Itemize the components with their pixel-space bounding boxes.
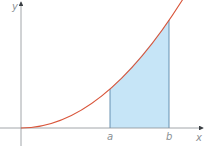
shaded-area xyxy=(110,20,169,128)
lower-bound-label: a xyxy=(107,131,113,142)
upper-bound-label: b xyxy=(166,131,172,142)
y-axis-label: y xyxy=(11,1,19,12)
area-under-curve-diagram: y x a b xyxy=(0,0,211,149)
x-axis-label: x xyxy=(195,132,202,143)
